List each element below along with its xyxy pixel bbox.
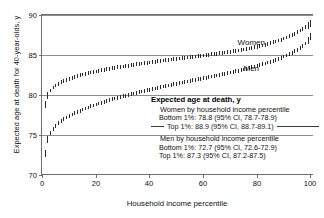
data-point-women <box>125 64 126 68</box>
data-point-men <box>131 92 132 96</box>
data-point-men <box>179 81 180 85</box>
data-point-men <box>139 90 140 94</box>
data-point-women <box>155 60 156 64</box>
data-point-women <box>176 57 177 61</box>
data-point-women <box>163 59 164 63</box>
data-point-women <box>211 52 212 56</box>
data-point-men <box>275 58 276 62</box>
data-point-women <box>227 50 228 54</box>
data-point-men <box>165 84 166 88</box>
data-point-women <box>200 54 201 58</box>
data-point-women <box>278 39 279 43</box>
data-point-women <box>292 33 293 37</box>
data-point-women <box>152 60 153 64</box>
data-point-women <box>289 34 290 38</box>
data-point-men <box>123 94 124 98</box>
y-axis-title: Expected age at death for 40-year-olds, … <box>12 0 21 173</box>
data-point-men <box>310 33 311 40</box>
data-point-men <box>171 83 172 87</box>
data-point-men <box>45 150 46 157</box>
data-point-women <box>270 41 271 45</box>
data-point-men <box>195 78 196 82</box>
data-point-women <box>235 49 236 53</box>
data-point-men <box>160 85 161 89</box>
legend-rule-right <box>277 126 319 127</box>
data-point-women <box>275 40 276 44</box>
data-point-women <box>206 53 207 57</box>
data-point-men <box>270 60 271 64</box>
data-point-men <box>88 106 89 110</box>
data-point-men <box>224 72 225 76</box>
data-point-men <box>187 80 188 84</box>
x-axis-tick-label: 80 <box>253 179 261 188</box>
data-point-men <box>152 87 153 91</box>
data-point-men <box>58 121 59 125</box>
data-point-women <box>136 62 137 66</box>
data-point-men <box>98 102 99 106</box>
men-top-value: Top 1%: 87.3 (95% CI, 87.2-87.5) <box>151 152 319 160</box>
data-point-women <box>106 67 107 71</box>
data-point-women <box>104 68 105 72</box>
data-point-men <box>136 91 137 95</box>
data-point-women <box>66 78 67 82</box>
data-point-men <box>211 75 212 79</box>
data-point-men <box>267 61 268 65</box>
data-point-women <box>131 63 132 67</box>
data-point-men <box>283 55 284 59</box>
data-point-women <box>55 84 56 88</box>
data-point-women <box>241 48 242 52</box>
y-axis-tick-label: 85 <box>29 51 37 60</box>
data-point-men <box>222 72 223 76</box>
data-point-women <box>219 51 220 55</box>
data-point-men <box>300 46 301 50</box>
women-top-value-row: Top 1%: 88.9 (95% CI, 88.7-89.1) <box>151 123 319 131</box>
data-point-women <box>224 51 225 55</box>
data-point-women <box>96 70 97 74</box>
x-axis-line <box>42 174 313 175</box>
data-point-men <box>281 56 282 60</box>
data-point-men <box>219 73 220 77</box>
y-axis-tick-label: 90 <box>29 11 37 20</box>
data-point-men <box>190 79 191 83</box>
data-point-men <box>114 97 115 101</box>
data-point-men <box>104 100 105 104</box>
data-point-men <box>90 104 91 108</box>
data-point-women <box>203 54 204 58</box>
data-point-women <box>300 29 301 33</box>
data-point-men <box>168 84 169 88</box>
data-point-women <box>187 56 188 60</box>
data-point-men <box>149 88 150 92</box>
data-point-women <box>308 22 309 29</box>
series-label-women: Women <box>238 38 265 47</box>
data-point-men <box>144 89 145 93</box>
data-point-men <box>125 94 126 98</box>
data-point-men <box>117 96 118 100</box>
data-point-women <box>243 48 244 52</box>
data-point-men <box>294 49 295 53</box>
data-point-women <box>267 42 268 46</box>
data-point-men <box>302 44 303 48</box>
data-point-women <box>53 86 54 90</box>
data-point-women <box>77 74 78 78</box>
data-point-men <box>101 101 102 105</box>
data-point-women <box>198 54 199 58</box>
data-point-women <box>93 70 94 74</box>
series-label-men: Men <box>244 63 260 72</box>
data-point-men <box>82 108 83 112</box>
data-point-women <box>58 82 59 86</box>
data-point-women <box>69 77 70 81</box>
data-point-men <box>106 99 107 103</box>
data-point-men <box>230 71 231 75</box>
annotation-header: Expected age at death, y <box>151 95 319 104</box>
data-point-women <box>61 80 62 84</box>
data-point-women <box>238 49 239 53</box>
data-point-women <box>179 57 180 61</box>
gridline <box>42 15 313 16</box>
data-point-men <box>147 88 148 92</box>
data-point-women <box>82 73 83 77</box>
data-point-men <box>72 113 73 117</box>
data-point-men <box>133 92 134 96</box>
data-point-men <box>176 82 177 86</box>
data-point-women <box>310 20 311 27</box>
data-point-women <box>165 58 166 62</box>
